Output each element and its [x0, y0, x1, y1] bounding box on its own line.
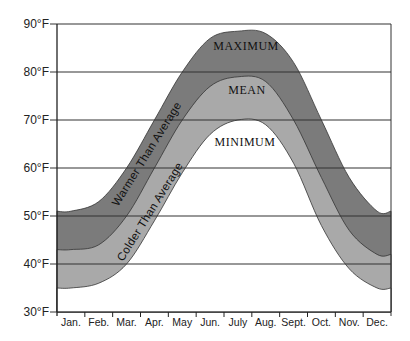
y-tick-label: 60°F — [24, 161, 49, 175]
y-axis-ticks: 30°F40°F50°F60°F70°F80°F90°F — [24, 17, 49, 319]
x-tick-label: Mar. — [116, 316, 136, 328]
y-tick-label: 70°F — [24, 113, 49, 127]
x-tick-label: May — [172, 316, 193, 328]
temperature-chart: 30°F40°F50°F60°F70°F80°F90°F Jan.Feb.Mar… — [0, 0, 410, 341]
x-tick-label: Nov. — [339, 316, 360, 328]
mean-label: MEAN — [228, 83, 265, 97]
x-tick-label: Dec. — [366, 316, 388, 328]
x-tick-label: July — [229, 316, 248, 328]
y-tick-label: 80°F — [24, 65, 49, 79]
x-tick-label: Jan. — [61, 316, 81, 328]
x-tick-label: Feb. — [88, 316, 109, 328]
x-tick-label: Jun. — [200, 316, 220, 328]
y-tick-label: 40°F — [24, 257, 49, 271]
x-tick-label: Aug. — [255, 316, 277, 328]
y-tick-label: 30°F — [24, 305, 49, 319]
x-axis-ticks: Jan.Feb.Mar.Apr.MayJun.JulyAug.Sept.Oct.… — [61, 312, 388, 328]
y-tick-label: 50°F — [24, 209, 49, 223]
minimum-label: MINIMUM — [215, 135, 276, 149]
maximum-label: MAXIMUM — [213, 39, 279, 53]
x-tick-label: Sept. — [281, 316, 306, 328]
y-tick-label: 90°F — [24, 17, 49, 31]
x-tick-label: Oct. — [312, 316, 331, 328]
x-tick-label: Apr. — [145, 316, 164, 328]
